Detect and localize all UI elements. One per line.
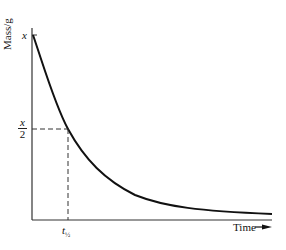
half-mass-label: x 2 <box>18 117 27 140</box>
y-axis-label: Mass/g <box>2 18 13 50</box>
x-axis-label: Time <box>233 222 256 233</box>
decay-diagram <box>0 0 286 250</box>
half-life-subscript: ½ <box>65 231 70 239</box>
initial-mass-label: x <box>22 30 27 41</box>
half-life-label: t½ <box>62 225 70 239</box>
decay-curve <box>33 35 272 214</box>
half-mass-numerator: x <box>20 117 25 128</box>
half-mass-denominator: 2 <box>20 129 26 140</box>
